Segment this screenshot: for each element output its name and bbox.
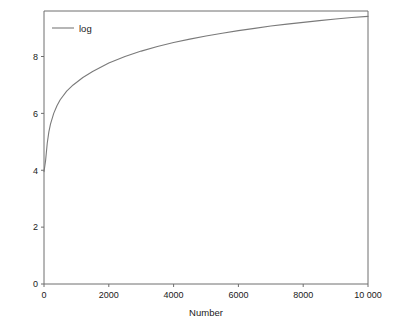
plot-background [44, 11, 368, 284]
x-tick-label: 10 000 [354, 290, 382, 300]
x-tick-label: 4000 [164, 290, 184, 300]
x-axis-title: Number [189, 307, 223, 318]
x-tick-label: 0 [41, 290, 46, 300]
x-axis-tick-labels: 0 2000 4000 6000 8000 10 000 [41, 290, 381, 300]
y-tick-label: 0 [33, 279, 38, 289]
x-tick-label: 2000 [99, 290, 119, 300]
y-tick-label: 2 [33, 222, 38, 232]
x-tick-label: 6000 [228, 290, 248, 300]
y-tick-label: 6 [33, 109, 38, 119]
chart-figure: 0 2 4 6 8 0 2000 4000 6000 8000 10 000 [0, 0, 396, 323]
y-axis-tick-labels: 0 2 4 6 8 [33, 52, 38, 289]
log-curve-chart: 0 2 4 6 8 0 2000 4000 6000 8000 10 000 [0, 0, 396, 323]
x-tick-label: 8000 [293, 290, 313, 300]
legend-label-log: log [79, 23, 92, 34]
y-tick-label: 4 [33, 166, 38, 176]
y-tick-label: 8 [33, 52, 38, 62]
